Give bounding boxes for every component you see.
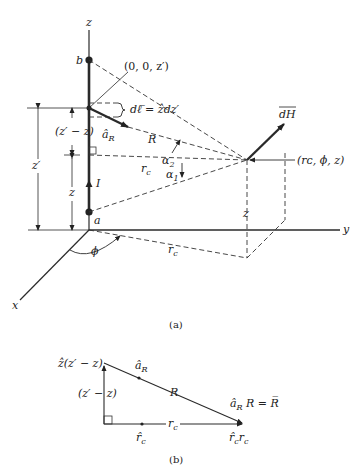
z-axis-label: z <box>85 16 92 29</box>
dl-label: dℓ̅ = ẑdz′ <box>130 103 179 116</box>
dl-brace <box>118 103 125 117</box>
b-R-vector-label: âR R = R̅ <box>230 396 279 412</box>
phi-label: ϕ <box>91 245 99 258</box>
b-z-vector-label: ẑ(z′ − z) <box>57 357 103 370</box>
z-label: z <box>68 186 75 199</box>
b-rc-hat-label: r̂c <box>136 431 146 446</box>
b-right-angle <box>104 416 112 424</box>
figure-a: z y x b a I (0, 0, z′) dℓ̅ = ẑdz′ âR R r… <box>12 16 350 330</box>
field-coords-label: (rᴄ, ϕ, z) <box>297 154 344 167</box>
point-b-label: b <box>76 54 83 67</box>
alpha2-label: α2 <box>162 154 175 169</box>
y-axis-label: y <box>342 223 350 236</box>
aR-label: âR <box>102 128 115 143</box>
b-rc-dot <box>140 422 143 425</box>
alpha2-arrow <box>172 140 180 153</box>
dH-label: dH <box>279 108 296 121</box>
figure-b: ẑ(z′ − z) (z′ − z) âR R rc r̂c âR R = R̅… <box>57 357 279 465</box>
caption-a: (a) <box>169 319 183 330</box>
z-drop-label: z <box>242 207 249 220</box>
current-label: I <box>95 177 101 190</box>
b-aR-dot <box>137 376 140 379</box>
x-axis <box>20 230 89 300</box>
b-rc-vector-label: r̂crc <box>229 431 249 446</box>
alpha1-label: α1 <box>166 168 179 183</box>
zprime-minus-z-label: (z′ − z) <box>55 125 94 138</box>
floor-to-y <box>247 220 285 258</box>
biot-savart-figure: z y x b a I (0, 0, z′) dℓ̅ = ẑdz′ âR R r… <box>0 0 360 473</box>
source-coords-label: (0, 0, z′) <box>124 60 169 73</box>
point-a-label: a <box>94 214 101 227</box>
b-aR-label: âR <box>135 359 148 374</box>
dH-vector <box>247 124 284 160</box>
rc-label: rc <box>141 162 151 177</box>
current-arrow-icon <box>86 180 93 187</box>
x-axis-label: x <box>12 299 19 312</box>
b-vertical-label: (z′ − z) <box>78 387 117 400</box>
R-label: R <box>147 133 156 146</box>
z-prime-label-overlay: z′ <box>31 159 41 172</box>
caption-b: (b) <box>169 454 183 465</box>
b-R-label: R <box>169 386 178 399</box>
ray-R <box>128 127 247 160</box>
